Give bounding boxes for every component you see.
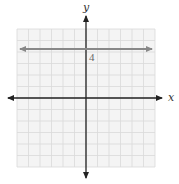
y-axis-label: y xyxy=(82,1,90,14)
x-axis-label: x xyxy=(168,91,175,104)
line-value-label: 4 xyxy=(89,51,95,63)
coordinate-plane: y x 4 xyxy=(0,0,179,184)
